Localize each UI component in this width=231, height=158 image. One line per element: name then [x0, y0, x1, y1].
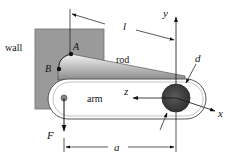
- label-axis-z: z: [123, 85, 129, 97]
- label-diameter-d: d: [195, 52, 201, 64]
- dimension-l-right-arrow: [136, 30, 174, 40]
- label-point-a: A: [72, 41, 80, 52]
- label-force-f: F: [46, 129, 54, 141]
- dimension-l-left-arrow: [72, 14, 105, 24]
- label-axis-x: x: [217, 107, 223, 119]
- label-point-b: B: [45, 63, 51, 74]
- label-length-a: a: [114, 141, 120, 153]
- label-wall: wall: [5, 42, 22, 53]
- label-arm: arm: [87, 93, 103, 104]
- rod-arm-wall-diagram: wall rod arm A B l a d F y z x: [0, 0, 231, 158]
- point-a-marker: [69, 52, 73, 56]
- label-rod: rod: [116, 54, 129, 65]
- point-b-marker: [57, 67, 61, 71]
- label-length-l: l: [123, 20, 126, 32]
- label-axis-y: y: [162, 7, 168, 19]
